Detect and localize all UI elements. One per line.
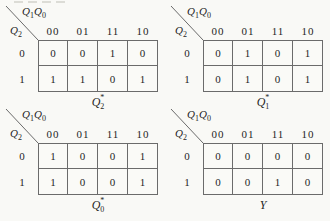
kmap-cell: 0: [203, 169, 233, 195]
caption-var: Q: [92, 95, 101, 110]
axis-var: Q: [187, 108, 195, 120]
axis-sub: 2: [18, 30, 22, 39]
column-header: 01: [233, 6, 263, 40]
axis-var: Q: [34, 108, 42, 120]
kmap-axis-corner: Q1Q0 Q2: [171, 109, 203, 143]
row-header: 0: [6, 40, 38, 66]
kmap-cell: 1: [38, 169, 68, 195]
kmap-q0-next: Q1Q0 Q2 00 01 11 10 0 1 0 0 1 1 1 0 0 1 …: [6, 109, 164, 213]
caption-var: Q: [92, 198, 101, 213]
axis-sub: 0: [207, 114, 211, 123]
axis-sub: 2: [183, 30, 187, 39]
column-header: 01: [233, 109, 263, 143]
kmap-output-y: Q1Q0 Q2 00 01 11 10 0 0 0 0 0 1 0 0 1 0 …: [171, 109, 329, 213]
axis-sub: 0: [42, 11, 46, 20]
axis-var: Q: [22, 108, 30, 120]
caption-sub: 0: [100, 206, 104, 214]
row-header: 0: [6, 143, 38, 169]
kmap-caption: Q*2: [38, 92, 158, 110]
kmap-cell: 0: [98, 143, 128, 169]
axis-var: Q: [175, 127, 183, 139]
kmap-cell: 0: [68, 40, 98, 66]
kmap-cell: 0: [233, 143, 263, 169]
kmap-q2-next: Q1Q0 Q2 00 01 11 10 0 0 0 1 0 1 1 1 0 1 …: [6, 6, 164, 110]
axis-label-q1q0: Q1Q0: [22, 108, 46, 123]
kmap-cell: 0: [203, 40, 233, 66]
kmap-cell: 0: [98, 66, 128, 92]
row-header: 0: [171, 143, 203, 169]
cropped-print-artifact: [14, 0, 84, 4]
kmap-cell: 0: [263, 40, 293, 66]
kmap-axis-corner: Q1Q0 Q2: [171, 6, 203, 40]
kmap-cell: 1: [38, 143, 68, 169]
row-header: 1: [171, 66, 203, 92]
kmap-cell: 0: [293, 143, 323, 169]
axis-label-q2: Q2: [10, 127, 22, 142]
row-header: 1: [6, 169, 38, 195]
kmap-cell: 0: [203, 143, 233, 169]
axis-sub: 0: [207, 11, 211, 20]
kmap-axis-corner: Q1Q0 Q2: [6, 6, 38, 40]
kmap-cell: 1: [128, 169, 158, 195]
axis-var: Q: [175, 24, 183, 36]
axis-var: Q: [10, 24, 18, 36]
kmap-cell: 0: [128, 40, 158, 66]
kmap-cell: 0: [68, 143, 98, 169]
kmap-cell: 0: [263, 143, 293, 169]
kmap-cell: 1: [128, 143, 158, 169]
row-header: 1: [171, 169, 203, 195]
kmap-cell: 1: [263, 169, 293, 195]
kmap-cell: 0: [38, 40, 68, 66]
row-header: 1: [6, 66, 38, 92]
axis-var: Q: [10, 127, 18, 139]
axis-var: Q: [199, 108, 207, 120]
kmap-caption: Y: [203, 195, 323, 213]
kmap-cell: 0: [98, 169, 128, 195]
kmap-grid: Q1Q0 Q2 00 01 11 10 0 0 0 1 0 1 1 1 0 1 …: [6, 6, 164, 110]
column-header: 10: [128, 109, 158, 143]
axis-var: Q: [22, 5, 30, 17]
kmap-cell: 1: [128, 66, 158, 92]
kmap-q1-next: Q1Q0 Q2 00 01 11 10 0 0 1 0 1 1 0 1 0 1 …: [171, 6, 329, 110]
column-header: 01: [68, 6, 98, 40]
kmap-cell: 1: [68, 66, 98, 92]
kmap-cell: 0: [293, 169, 323, 195]
kmap-cell: 1: [98, 40, 128, 66]
kmap-cell: 0: [203, 66, 233, 92]
kmap-axis-corner: Q1Q0 Q2: [6, 109, 38, 143]
axis-sub: 2: [18, 133, 22, 142]
axis-label-q2: Q2: [175, 24, 187, 39]
kmap-caption: Q*0: [38, 195, 158, 213]
kmap-cell: 1: [233, 66, 263, 92]
axis-var: Q: [199, 5, 207, 17]
textbook-page-fragment: { "colors": { "background": "#f9f9f6", "…: [0, 0, 330, 221]
kmap-cell: 1: [293, 40, 323, 66]
kmap-cell: 0: [263, 66, 293, 92]
kmap-cell: 1: [233, 40, 263, 66]
column-header: 01: [68, 109, 98, 143]
column-header: 10: [293, 109, 323, 143]
column-header: 11: [98, 6, 128, 40]
kmap-cell: 1: [38, 66, 68, 92]
column-header: 10: [293, 6, 323, 40]
kmap-grid: Q1Q0 Q2 00 01 11 10 0 0 0 0 0 1 0 0 1 0 …: [171, 109, 329, 213]
axis-label-q1q0: Q1Q0: [22, 5, 46, 20]
axis-sub: 0: [42, 114, 46, 123]
caption-var: Y: [260, 198, 267, 213]
kmap-cell: 1: [293, 66, 323, 92]
kmap-cell: 0: [233, 169, 263, 195]
column-header: 11: [98, 109, 128, 143]
kmap-caption: Q*1: [203, 92, 323, 110]
axis-var: Q: [187, 5, 195, 17]
axis-label-q1q0: Q1Q0: [187, 5, 211, 20]
row-header: 0: [171, 40, 203, 66]
axis-label-q2: Q2: [10, 24, 22, 39]
caption-var: Q: [257, 95, 266, 110]
kmap-grid: Q1Q0 Q2 00 01 11 10 0 0 1 0 1 1 0 1 0 1 …: [171, 6, 329, 110]
axis-label-q2: Q2: [175, 127, 187, 142]
kmap-cell: 0: [68, 169, 98, 195]
column-header: 10: [128, 6, 158, 40]
axis-var: Q: [34, 5, 42, 17]
axis-sub: 2: [183, 133, 187, 142]
axis-label-q1q0: Q1Q0: [187, 108, 211, 123]
